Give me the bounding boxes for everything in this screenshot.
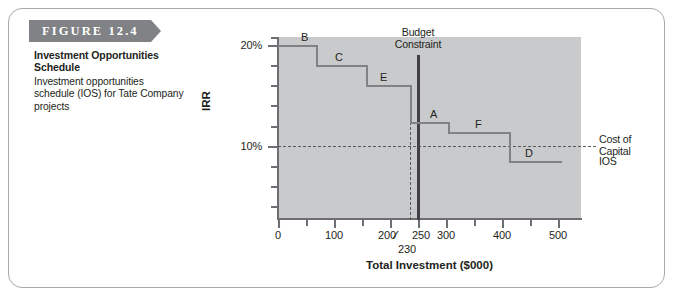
y-tick-minor [271,206,277,208]
budget-constraint-line [417,55,420,220]
step-label-E: E [380,71,387,83]
y-tick-minor [271,126,277,128]
step-segment-A [410,122,450,124]
ios-series-label: IOS [599,156,617,168]
step-segment-C [316,65,368,67]
cost-of-capital-line [278,146,596,147]
step-segment-B [278,45,318,47]
step-riser-F-D [509,132,511,163]
x-axis-label-300: 300 [426,229,466,241]
step-label-D: D [525,147,533,159]
step-label-F: F [475,118,482,130]
step-label-C: C [335,51,343,63]
y-tick-minor [271,37,277,39]
x-tick-500 [558,220,560,228]
y-axis [277,37,279,220]
y-tick-minor [271,186,277,188]
x-tick-300 [446,220,448,228]
y-axis-title: IRR [200,91,212,111]
x-tick-100 [334,220,336,228]
x-axis-label-0: 0 [258,229,298,241]
x-tick-200 [390,220,392,228]
y-tick-minor [271,65,277,67]
step-segment-D [509,161,562,163]
step-label-A: A [430,108,437,120]
x-tick-minor [306,220,308,226]
step-label-B: B [301,31,308,43]
x-axis-label-400: 400 [482,229,522,241]
step-segment-E [366,85,412,87]
step-riser-C-E [366,65,368,86]
step-riser-E-A [410,85,412,124]
x-tick-minor [362,220,364,226]
y-tick-10 [268,146,277,148]
x-axis-label-500: 500 [538,229,578,241]
x-tick-minor [530,220,532,226]
y-tick-minor [271,105,277,107]
y-axis-label-20: 20% [222,39,262,51]
step-segment-F [448,132,511,134]
budget-constraint-label: Budget Constraint [386,27,450,51]
x-axis-label-100: 100 [314,229,354,241]
step-riser-B-C [316,45,318,66]
x-tick-0 [278,220,280,228]
ios-chart: 20% 10% IRR 0 100 200 250 300 400 500 / … [9,9,666,289]
x-tick-minor [474,220,476,226]
y-tick-20 [268,45,277,47]
x-axis-label-230: 230 [387,243,427,255]
x-axis-title: Total Investment ($000) [278,259,581,271]
figure-card: FIGURE 12.4 Investment Opportunities Sch… [8,8,665,288]
optimal-investment-marker [410,122,411,220]
y-axis-label-10: 10% [222,140,262,152]
x-axis [277,218,582,220]
y-tick-minor [271,166,277,168]
x-tick-400 [502,220,504,228]
x-tick-250 [418,220,420,228]
y-tick-minor [271,85,277,87]
